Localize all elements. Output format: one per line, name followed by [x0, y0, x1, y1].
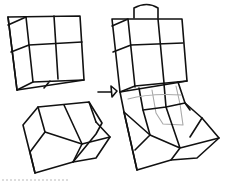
block-top-ridge	[38, 102, 96, 144]
arrow-head	[111, 86, 117, 97]
arrow-icon	[98, 86, 117, 97]
upper-cube-horizontal-divider	[131, 43, 183, 45]
cube-drawing	[8, 16, 84, 90]
diagram-canvas	[0, 0, 228, 185]
sketch-diagram	[0, 0, 228, 185]
cube-side-edge-top	[8, 17, 26, 25]
handle-arc	[134, 5, 158, 19]
base-bevel-lines	[124, 107, 219, 160]
base-top-edge	[143, 103, 185, 110]
cube-outline	[8, 16, 84, 90]
assembled-form-drawing	[112, 5, 219, 171]
upper-cube-outline	[112, 19, 187, 92]
beveled-block-drawing	[23, 102, 110, 173]
cube-left-face	[8, 17, 17, 90]
cube-vertical-divider	[54, 16, 58, 79]
block-bevel-lines	[30, 132, 110, 173]
upper-cube-vertical-divider	[158, 19, 164, 83]
